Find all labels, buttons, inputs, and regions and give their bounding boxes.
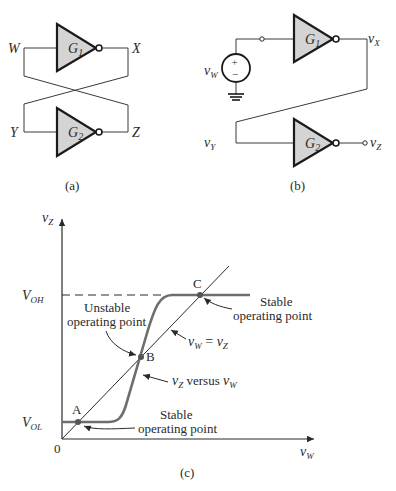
source-plus-sign: + [232, 56, 238, 68]
figure-a-cross-coupled-inverters: G1 G2 W X Y Z (a) [8, 24, 141, 193]
caption-c: (c) [180, 465, 194, 480]
ground-icon [228, 94, 244, 100]
point-a-label: A [72, 402, 82, 417]
point-c-label: C [193, 276, 202, 291]
caption-b: (b) [290, 178, 305, 193]
vol-label: VOL [22, 415, 42, 432]
stable-a-arrow [84, 426, 135, 429]
identity-arrow [171, 330, 186, 339]
figure-b-open-loop-test-circuit: + − vW G1 vX G2 vY vZ (b) [204, 15, 382, 193]
node-vx-label: vX [368, 31, 380, 48]
unstable-label-line2: operating point [67, 314, 146, 329]
node-y-label: Y [10, 125, 20, 140]
stable-c-label-line1: Stable [260, 294, 293, 309]
gate-g1-inverter: G1 [57, 24, 102, 71]
caption-a: (a) [65, 178, 79, 193]
unstable-arrow [106, 331, 136, 355]
point-c-marker [197, 292, 203, 298]
node-w-label: W [8, 41, 21, 56]
stable-a-label-line2: operating point [138, 421, 217, 436]
node-x-label: X [131, 41, 141, 56]
point-b-label: B [146, 349, 155, 364]
x-axis-label: vW [300, 444, 315, 461]
source-minus-sign: − [232, 68, 238, 80]
curve-label: vZ versus vW [172, 373, 238, 390]
y-axis-label: vZ [42, 210, 54, 227]
node-vz-label: vZ [370, 135, 382, 152]
node-z-label: Z [132, 125, 140, 140]
unstable-label-line1: Unstable [84, 300, 130, 315]
gate-g1-inverter-b: G1 [294, 15, 339, 62]
figure-c-transfer-characteristic: vZ vW 0 VOH VOL A B C Unstable operating… [22, 210, 315, 480]
curve-arrow [143, 375, 168, 382]
voltage-source-vw: + − vW [204, 37, 294, 100]
stable-a-label-line1: Stable [160, 407, 193, 422]
point-b-marker [138, 354, 144, 360]
identity-label: vW = vZ [188, 334, 229, 351]
node-vy-label: vY [204, 135, 216, 152]
stable-c-label-line2: operating point [233, 308, 312, 323]
gate-g2-inverter: G2 [57, 108, 102, 156]
source-vw-label: vW [204, 63, 219, 80]
point-a-marker [75, 419, 81, 425]
bistable-circuit-figure: G1 G2 W X Y Z (a) + − vW [0, 0, 396, 491]
origin-label: 0 [54, 441, 61, 456]
gate-g2-inverter-b: G2 [294, 119, 339, 166]
stable-c-arrow [204, 298, 232, 309]
voh-label: VOH [22, 288, 44, 305]
